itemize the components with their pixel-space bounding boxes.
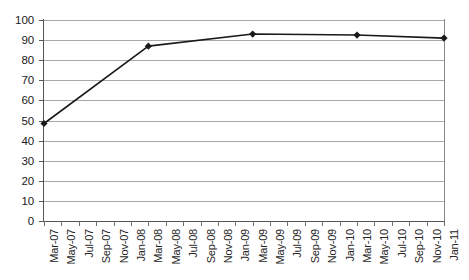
x-tick-label: Jul-08 — [187, 229, 199, 258]
y-tick-label: 60 — [21, 94, 34, 106]
x-tick-label: May-09 — [274, 229, 286, 264]
x-tick-label: Mar-10 — [361, 229, 373, 263]
x-tick-mark — [305, 221, 306, 226]
x-tick-mark — [409, 221, 410, 226]
x-tick-mark — [148, 221, 149, 226]
x-tick-label: Nov-10 — [431, 229, 443, 263]
x-tick-mark — [44, 221, 45, 226]
x-tick-label: Jul-09 — [291, 229, 303, 258]
x-tick-label: Sep-09 — [309, 229, 321, 263]
x-tick-mark — [340, 221, 341, 226]
data-point-marker — [353, 31, 360, 38]
y-tick-label: 70 — [21, 74, 34, 86]
x-tick-label: Jan-10 — [344, 229, 356, 261]
x-tick-mark — [357, 221, 358, 226]
x-tick-mark — [392, 221, 393, 226]
data-point-marker — [249, 30, 256, 37]
x-tick-mark — [79, 221, 80, 226]
y-tick-label: 20 — [21, 175, 34, 187]
x-tick-label: Jan-11 — [448, 229, 460, 261]
x-tick-mark — [270, 221, 271, 226]
x-tick-mark — [235, 221, 236, 226]
plot-area — [44, 20, 444, 221]
x-tick-mark — [374, 221, 375, 226]
y-tick-label: 40 — [21, 135, 34, 147]
x-tick-mark — [183, 221, 184, 226]
x-tick-mark — [61, 221, 62, 226]
x-tick-mark — [166, 221, 167, 226]
plot-right-border — [444, 19, 445, 222]
data-series — [44, 20, 444, 221]
line-chart: 0102030405060708090100 Mar-07May-07Jul-0… — [0, 0, 469, 280]
x-tick-label: Mar-08 — [152, 229, 164, 263]
x-tick-label: Jul-07 — [83, 229, 95, 258]
x-tick-mark — [253, 221, 254, 226]
x-tick-mark — [427, 221, 428, 226]
x-tick-label: Mar-09 — [257, 229, 269, 263]
x-tick-label: May-10 — [378, 229, 390, 264]
x-tick-mark — [218, 221, 219, 226]
x-tick-label: Sep-08 — [205, 229, 217, 263]
y-tick-label: 30 — [21, 155, 34, 167]
x-tick-mark — [322, 221, 323, 226]
x-tick-mark — [96, 221, 97, 226]
y-tick-label: 50 — [21, 115, 34, 127]
x-tick-mark — [201, 221, 202, 226]
y-tick-label: 90 — [21, 34, 34, 46]
x-tick-label: Jul-10 — [396, 229, 408, 258]
x-tick-label: Nov-09 — [326, 229, 338, 263]
x-tick-label: Jan-09 — [239, 229, 251, 261]
x-tick-label: Nov-07 — [118, 229, 130, 263]
x-tick-label: Sep-10 — [413, 229, 425, 263]
x-tick-label: Nov-08 — [222, 229, 234, 263]
y-tick-label: 10 — [21, 195, 34, 207]
x-tick-mark — [114, 221, 115, 226]
x-tick-label: Jan-08 — [135, 229, 147, 261]
x-tick-mark — [287, 221, 288, 226]
y-tick-label: 100 — [15, 14, 34, 26]
x-axis: Mar-07May-07Jul-07Sep-07Nov-07Jan-08Mar-… — [0, 221, 469, 280]
data-point-marker — [440, 34, 447, 41]
y-tick-label: 80 — [21, 54, 34, 66]
x-tick-mark — [444, 221, 445, 226]
x-tick-mark — [131, 221, 132, 226]
x-tick-label: Mar-07 — [48, 229, 60, 263]
x-tick-label: May-07 — [65, 229, 77, 264]
series-line — [44, 34, 444, 123]
x-tick-label: May-08 — [170, 229, 182, 264]
x-tick-label: Sep-07 — [100, 229, 112, 263]
